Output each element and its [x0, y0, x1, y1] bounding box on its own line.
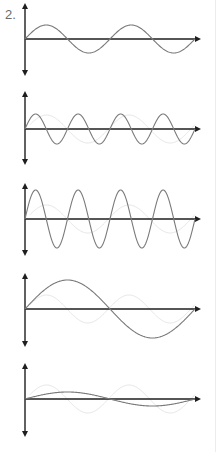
wave-panel-2 [22, 91, 201, 165]
y-axis-down-arrow-icon [22, 341, 28, 347]
y-axis-up-arrow-icon [22, 273, 28, 279]
wave-panel-1 [22, 3, 201, 76]
y-axis-up-arrow-icon [22, 183, 28, 189]
y-axis-down-arrow-icon [22, 159, 28, 165]
x-axis-arrow-icon [195, 36, 201, 42]
y-axis-down-arrow-icon [22, 431, 28, 437]
y-axis-down-arrow-icon [22, 250, 28, 256]
wave-panel-5 [22, 363, 201, 437]
y-axis-up-arrow-icon [22, 363, 28, 369]
y-axis-up-arrow-icon [22, 91, 28, 97]
wave-panel-4 [22, 273, 201, 347]
x-axis-arrow-icon [195, 126, 201, 132]
x-axis-arrow-icon [195, 216, 201, 222]
x-axis-arrow-icon [195, 396, 201, 402]
y-axis-down-arrow-icon [22, 70, 28, 76]
wave-panel-3 [22, 183, 201, 256]
wave-diagram [0, 0, 217, 452]
y-axis-up-arrow-icon [22, 3, 28, 9]
x-axis-arrow-icon [195, 306, 201, 312]
